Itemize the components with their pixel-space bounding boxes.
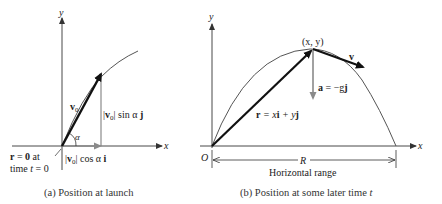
angle-alpha-label: α xyxy=(75,132,80,142)
position-vector-r xyxy=(212,51,311,146)
axis-label-x-b: x xyxy=(417,140,423,151)
panel-b: y x O (x, y) v a = −gj r = xi + yj R Hor… xyxy=(200,11,423,178)
caption-a: (a) Position at launch xyxy=(44,187,134,198)
caption-b-text: (b) Position at some later time xyxy=(240,187,369,198)
range-label: Horizontal range xyxy=(269,167,337,178)
origin-note-line1: r = 0 at xyxy=(10,151,40,162)
range-symbol: R xyxy=(299,155,306,166)
acceleration-label: a = −gj xyxy=(318,82,348,93)
v0-vector xyxy=(62,74,101,146)
v0-label: v0 xyxy=(70,101,79,114)
trajectory-curve-a xyxy=(62,51,138,146)
caption-b-t: t xyxy=(369,187,372,198)
caption-b: (b) Position at some later time t xyxy=(240,187,372,198)
cos-component-label: |v0| cos α i xyxy=(65,153,107,166)
velocity-label: v xyxy=(349,51,354,62)
origin-label: O xyxy=(201,152,208,163)
axis-label-y-a: y xyxy=(58,7,64,18)
point-label: (x, y) xyxy=(302,36,324,48)
axis-label-x-a: x xyxy=(163,140,169,151)
origin-note-line2: time t = 0 xyxy=(10,163,49,174)
projectile-diagram: y x v0 α |v0| sin α j |v0| cos α i r = 0… xyxy=(0,0,442,204)
velocity-vector xyxy=(313,49,363,67)
position-label: r = xi + yj xyxy=(256,109,299,120)
trajectory-curve-b xyxy=(212,49,396,146)
axis-label-y-b: y xyxy=(208,11,214,22)
panel-a: y x v0 α |v0| sin α j |v0| cos α i r = 0… xyxy=(10,7,169,174)
sin-component-label: |v0| sin α j xyxy=(103,109,143,122)
origin-pointer xyxy=(55,149,61,156)
